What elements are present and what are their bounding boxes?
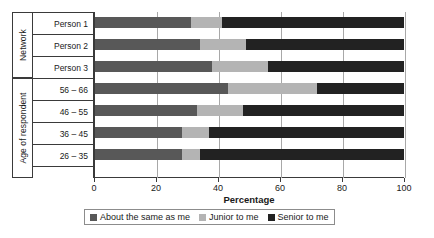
- x-axis-tick-label-100: 100: [396, 183, 411, 193]
- axis-group-label-age-of-respondent: Age of respondent: [18, 92, 28, 163]
- bar-row: [95, 78, 404, 100]
- bar-segment: [95, 17, 191, 28]
- bar-row: [95, 12, 404, 34]
- legend-swatch-icon-senior-to-me: [268, 214, 275, 221]
- bar-segment: [246, 39, 404, 50]
- legend-label-senior-to-me: Senior to me: [278, 212, 329, 222]
- legend-item-senior-to-me: Senior to me: [268, 212, 329, 222]
- bar-row: [95, 122, 404, 144]
- bar-row: [95, 100, 404, 122]
- legend: About the same as me Junior to me Senior…: [84, 209, 335, 225]
- legend-swatch-icon-about-the-same-as-me: [90, 214, 97, 221]
- category-label-56-66: 56 – 66: [33, 79, 93, 101]
- legend-swatch-icon-junior-to-me: [199, 214, 206, 221]
- plot-area: [94, 12, 404, 178]
- bar-segment: [209, 127, 404, 138]
- x-axis-title: Percentage: [94, 194, 404, 205]
- bar-segment: [191, 17, 222, 28]
- category-label-36-45: 36 – 45: [33, 123, 93, 145]
- bar-segment: [268, 61, 404, 72]
- x-axis-tick-label-60: 60: [275, 183, 285, 193]
- bar-row: [95, 56, 404, 78]
- axis-group-age-of-respondent: Age of respondent: [12, 78, 32, 178]
- x-axis-tick-label-0: 0: [91, 183, 96, 193]
- axis-group-label-network: Network: [18, 29, 28, 61]
- legend-item-junior-to-me: Junior to me: [199, 212, 259, 222]
- x-axis-tick-label-80: 80: [337, 183, 347, 193]
- bar-segment: [95, 105, 197, 116]
- bar-segment: [95, 149, 182, 160]
- bar-row: [95, 144, 404, 166]
- legend-label-about-the-same-as-me: About the same as me: [100, 212, 190, 222]
- x-axis-tick-80: [342, 178, 343, 182]
- category-label-person-1: Person 1: [33, 13, 93, 35]
- axis-group-network: Network: [12, 12, 32, 78]
- stacked-bar: [95, 17, 404, 28]
- x-axis-tick-60: [280, 178, 281, 182]
- x-axis-tick-20: [156, 178, 157, 182]
- bar-segment: [95, 61, 212, 72]
- category-label-26-35: 26 – 35: [33, 145, 93, 167]
- stacked-bar: [95, 39, 404, 50]
- bar-segment: [182, 127, 210, 138]
- x-axis-tick-40: [218, 178, 219, 182]
- x-axis-tick-label-40: 40: [213, 183, 223, 193]
- stacked-bar-chart: Network Age of respondent Person 1 Perso…: [0, 0, 434, 238]
- bar-segment: [95, 39, 200, 50]
- bar-segment: [200, 39, 246, 50]
- bar-segment: [317, 83, 404, 94]
- bar-segment: [95, 127, 182, 138]
- bar-segment: [197, 105, 243, 116]
- bar-row: [95, 34, 404, 56]
- x-axis-tick-0: [94, 178, 95, 182]
- stacked-bar: [95, 61, 404, 72]
- bar-segment: [212, 61, 268, 72]
- legend-item-about-the-same-as-me: About the same as me: [90, 212, 190, 222]
- stacked-bar: [95, 127, 404, 138]
- category-label-46-55: 46 – 55: [33, 101, 93, 123]
- category-label-person-3: Person 3: [33, 57, 93, 79]
- bar-segment: [228, 83, 318, 94]
- stacked-bar: [95, 83, 404, 94]
- bar-segment: [222, 17, 404, 28]
- bar-segment: [243, 105, 404, 116]
- x-axis-tick-100: [404, 178, 405, 182]
- stacked-bar: [95, 149, 404, 160]
- gridline-100: [405, 12, 406, 178]
- bar-segment: [200, 149, 404, 160]
- bar-segment: [182, 149, 201, 160]
- category-label-column: Person 1 Person 2 Person 3 56 – 66 46 – …: [32, 12, 94, 178]
- category-label-person-2: Person 2: [33, 35, 93, 57]
- x-axis-tick-label-20: 20: [151, 183, 161, 193]
- bar-segment: [95, 83, 228, 94]
- stacked-bar: [95, 105, 404, 116]
- legend-label-junior-to-me: Junior to me: [209, 212, 259, 222]
